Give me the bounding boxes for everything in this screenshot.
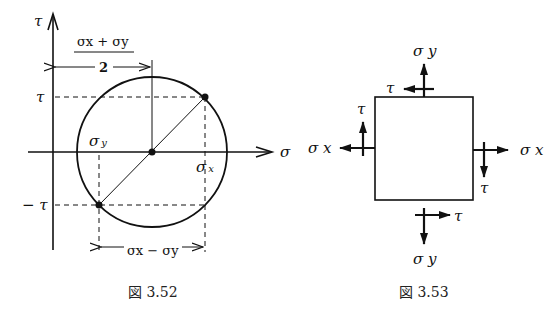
sigma-axis-label: σ: [280, 143, 291, 161]
diameter-formula: σx − σy: [127, 243, 179, 258]
top-normal-label: σ y: [413, 42, 437, 60]
tau-axis-label: τ: [34, 12, 43, 30]
diagram-canvas: σx + σy 2 σx − σy τ σ τ − τ σy σx 図 3.52…: [0, 0, 560, 321]
mohr-circle-figure: σx + σy 2 σx − σy τ σ τ − τ σy σx 図 3.52: [22, 12, 291, 300]
sigma-y-label: σy: [89, 132, 107, 150]
left-normal-label: σ x: [308, 139, 332, 157]
right-normal-label: σ x: [520, 141, 544, 159]
neg-tau-value-label: − τ: [22, 196, 48, 214]
point-y: [96, 202, 103, 209]
tau-value-label: τ: [36, 88, 45, 106]
sigma-x-label: σx: [196, 158, 214, 176]
left-shear-label: τ: [357, 100, 366, 118]
center-point: [149, 149, 156, 156]
point-x: [202, 94, 209, 101]
bottom-shear-label: τ: [454, 207, 463, 225]
top-shear-label: τ: [386, 79, 395, 97]
center-formula-denominator: 2: [99, 60, 108, 75]
right-shear-label: τ: [480, 179, 489, 197]
figure-353-caption: 図 3.53: [399, 284, 449, 300]
bottom-normal-label: σ y: [413, 250, 437, 268]
figure-352-caption: 図 3.52: [128, 284, 178, 300]
center-formula-numerator: σx + σy: [77, 34, 129, 49]
stress-element-figure: σ y τ σ x τ σ x τ σ y τ 図 3.53: [308, 42, 544, 300]
stress-element-square: [375, 97, 473, 200]
